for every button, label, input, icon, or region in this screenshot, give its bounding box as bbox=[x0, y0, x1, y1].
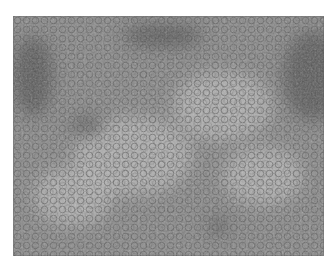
micrograph-texture bbox=[13, 16, 324, 256]
cell-micrograph-image bbox=[13, 16, 324, 256]
